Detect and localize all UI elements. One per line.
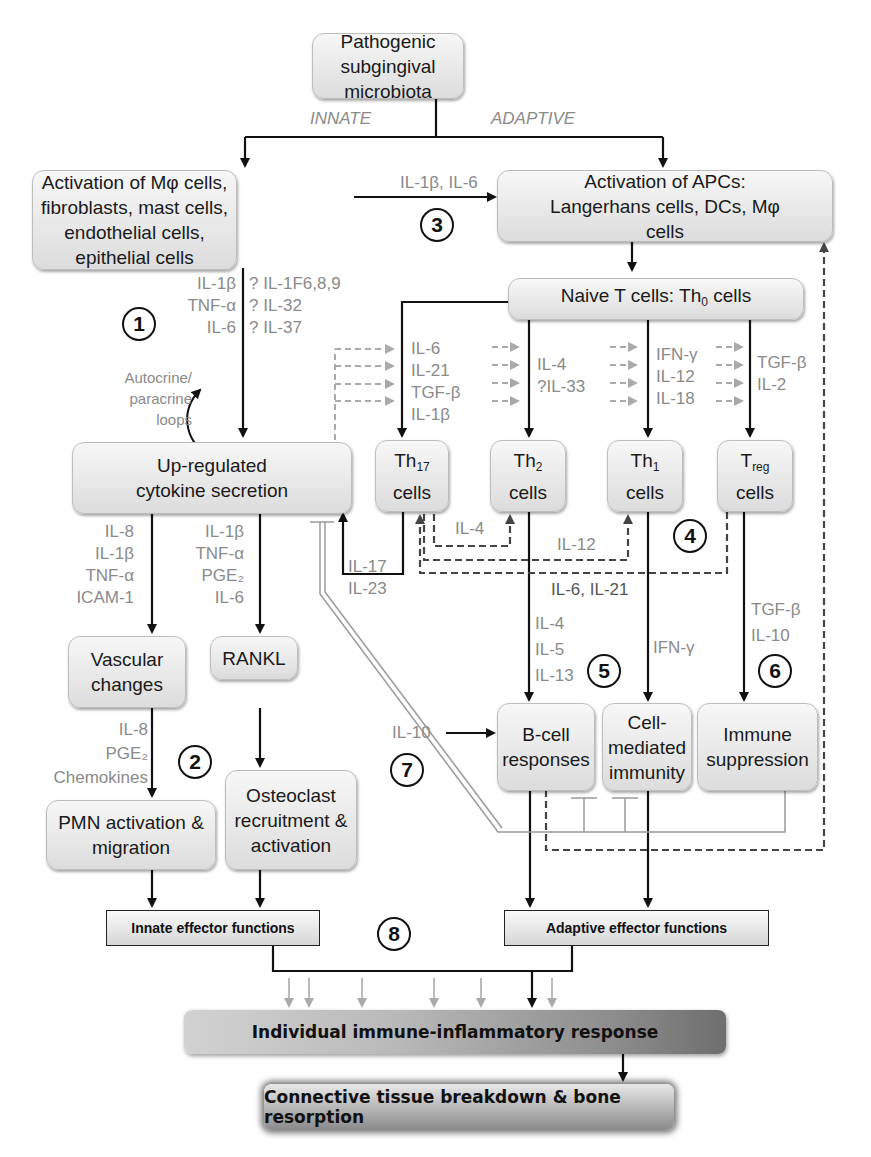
- th1-cells-text: cells: [626, 480, 664, 505]
- step-5-badge: 5: [587, 654, 621, 688]
- bcell-input-cytokines: IL-4 IL-5 IL-13: [535, 611, 574, 689]
- th17-node: Th17 cells: [375, 440, 449, 512]
- step1-right-cytokines: ? IL-1F6,8,9 ? IL-32 ? IL-37: [249, 273, 341, 339]
- th1-input-cytokines: IFN-γ IL-12 IL-18: [656, 344, 698, 410]
- rankl-input-cytokines: IL-1β TNF-α PGE₂ IL-6: [180, 521, 244, 609]
- treg-subscript: reg: [752, 460, 769, 474]
- individual-response-text: Individual immune-inflammatory response: [252, 1022, 659, 1042]
- th17-subscript: 17: [416, 460, 429, 474]
- th1-title: Th1: [631, 448, 660, 480]
- il1b-il6-label: IL-1β, IL-6: [400, 172, 478, 194]
- pmn-text: PMN activation & migration: [55, 810, 207, 860]
- il10-label: IL-10: [392, 722, 431, 744]
- step-7-badge: 7: [390, 753, 424, 787]
- vascular-text: Vascular changes: [79, 647, 175, 697]
- autocrine-label: Autocrine/ paracrine loops: [100, 367, 192, 430]
- naive-t-cells-node: Naive T cells: Th0 cells: [508, 278, 804, 320]
- th2-subscript: 2: [536, 460, 543, 474]
- innate-activation-node: Activation of Mφ cells, fibroblasts, mas…: [32, 170, 237, 270]
- bcell-text: B-cell responses: [500, 722, 592, 772]
- th17-cells-text: cells: [393, 480, 431, 505]
- treg-node: Treg cells: [717, 440, 793, 512]
- innate-effector-text: Innate effector functions: [131, 920, 294, 936]
- th2-node: Th2 cells: [490, 440, 566, 512]
- naive-t-cells-text: Naive T cells: Th0 cells: [561, 283, 751, 315]
- immune-suppression-node: Immune suppression: [697, 703, 818, 791]
- th1-node: Th1 cells: [607, 440, 683, 512]
- step-1-badge: 1: [122, 307, 156, 341]
- pathogen-text: Pathogenic subgingival microbiota: [313, 29, 463, 104]
- th2-cells-text: cells: [509, 480, 547, 505]
- il4-loop-label: IL-4: [455, 518, 484, 540]
- connective-tissue-text: Connective tissue breakdown & bone resor…: [264, 1087, 674, 1127]
- treg-title: Treg: [741, 448, 770, 480]
- treg-label: T: [741, 450, 753, 471]
- th2-input-cytokines: IL-4 ?IL-33: [537, 354, 585, 398]
- step-6-badge: 6: [758, 654, 792, 688]
- il17-il23-label: IL-17 IL-23: [348, 556, 387, 600]
- vascular-changes-node: Vascular changes: [68, 636, 186, 708]
- th1-label: Th: [631, 450, 653, 471]
- innate-effector-node: Innate effector functions: [106, 910, 320, 946]
- adaptive-label: ADAPTIVE: [491, 108, 575, 130]
- ifng-label: IFN-γ: [653, 637, 695, 659]
- upregulated-cytokine-node: Up-regulated cytokine secretion: [72, 442, 352, 514]
- il6-il21-label: IL-6, IL-21: [551, 579, 629, 601]
- step-3-badge: 3: [420, 208, 454, 242]
- rankl-text: RANKL: [222, 646, 285, 671]
- treg-cells-text: cells: [736, 480, 774, 505]
- th2-label: Th: [514, 450, 536, 471]
- connective-tissue-node: Connective tissue breakdown & bone resor…: [264, 1084, 674, 1130]
- pathogen-node: Pathogenic subgingival microbiota: [312, 33, 464, 99]
- adaptive-effector-node: Adaptive effector functions: [504, 910, 769, 946]
- osteoclast-node: Osteoclast recruitment & activation: [225, 770, 357, 870]
- pmn-activation-node: PMN activation & migration: [46, 800, 216, 870]
- innate-label: INNATE: [310, 108, 371, 130]
- upregulated-text: Up-regulated cytokine secretion: [133, 453, 291, 503]
- bcell-responses-node: B-cell responses: [497, 703, 595, 791]
- treg-input-cytokines: TGF-β IL-2: [757, 352, 806, 396]
- il12-loop-label: IL-12: [557, 534, 596, 556]
- step-2-badge: 2: [178, 745, 212, 779]
- immune-response-diagram: Pathogenic subgingival microbiota Activa…: [0, 0, 871, 1157]
- vascular-input-cytokines: IL-8 IL-1β TNF-α ICAM-1: [62, 521, 134, 609]
- adaptive-effector-text: Adaptive effector functions: [546, 920, 727, 936]
- immunesupp-text: Immune suppression: [702, 722, 813, 772]
- th17-label: Th: [394, 450, 416, 471]
- th1-subscript: 1: [653, 460, 660, 474]
- naive-t-label: Naive T cells: Th: [561, 285, 701, 306]
- apc-activation-node: Activation of APCs: Langerhans cells, DC…: [497, 170, 833, 242]
- pmn-input-cytokines: IL-8 PGE₂ Chemokines: [30, 718, 148, 790]
- cellmediated-text: Cell-mediated immunity: [605, 710, 689, 785]
- individual-response-node: Individual immune-inflammatory response: [184, 1010, 726, 1054]
- apc-activation-text: Activation of APCs: Langerhans cells, DC…: [538, 169, 792, 244]
- step-8-badge: 8: [377, 917, 411, 951]
- step1-left-cytokines: IL-1β TNF-α IL-6: [170, 273, 236, 339]
- th2-title: Th2: [514, 448, 543, 480]
- rankl-node: RANKL: [210, 636, 298, 680]
- naive-t-subscript: 0: [701, 295, 708, 309]
- osteoclast-text: Osteoclast recruitment & activation: [232, 783, 350, 858]
- step-4-badge: 4: [673, 519, 707, 553]
- treg-output-cytokines: TGF-β IL-10: [751, 597, 800, 649]
- innate-activation-text: Activation of Mφ cells, fibroblasts, mas…: [33, 170, 236, 270]
- th17-input-cytokines: IL-6 IL-21 TGF-β IL-1β: [411, 338, 460, 426]
- th17-title: Th17: [394, 448, 430, 480]
- cell-mediated-immunity-node: Cell-mediated immunity: [602, 703, 692, 791]
- naive-t-tail: cells: [708, 285, 751, 306]
